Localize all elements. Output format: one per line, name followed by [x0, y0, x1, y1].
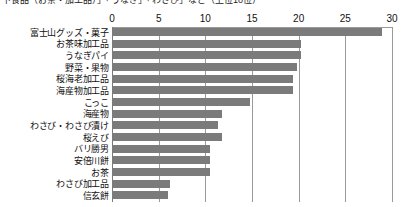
category-label: バリ勝男 — [74, 144, 109, 154]
bar — [112, 75, 293, 83]
x-tick-label: 25 — [340, 13, 351, 25]
bar — [112, 98, 250, 106]
category-label-row: うなぎパイ — [0, 50, 109, 62]
bar-row — [112, 120, 392, 132]
category-label: わさび・わさび漬け — [30, 121, 109, 131]
bar-row — [112, 167, 392, 179]
caption-strip: 下食品（お茶・加工品）」「うなぎ」「わさび」など（上位10位） — [0, 0, 420, 9]
bar — [112, 191, 168, 199]
x-tick-label: 15 — [246, 13, 257, 25]
x-tick-label: 20 — [293, 13, 304, 25]
category-label-row: 海産物 — [0, 109, 109, 121]
category-label-row: バリ勝男 — [0, 144, 109, 156]
category-label-row: わさび・わさび漬け — [0, 120, 109, 132]
bar-row — [112, 97, 392, 109]
category-label: こっこ — [84, 98, 109, 108]
bar — [112, 63, 297, 71]
bar — [112, 110, 222, 118]
bar — [112, 51, 301, 59]
category-label: 安倍川餅 — [74, 156, 109, 166]
category-label: うなぎパイ — [65, 51, 109, 61]
category-label: お茶 — [91, 168, 109, 178]
bar-row — [112, 27, 392, 39]
category-label-row: 桜海老加工品 — [0, 74, 109, 86]
category-label: お茶味加工品 — [56, 39, 109, 49]
bar — [112, 86, 293, 94]
category-label: 桜海老加工品 — [56, 74, 109, 84]
bar-row — [112, 155, 392, 167]
x-tick-label: 0 — [109, 13, 115, 25]
category-label: 桜えび — [83, 133, 109, 143]
bar-row — [112, 74, 392, 86]
category-label: わさび加工品 — [56, 179, 109, 189]
bar — [112, 156, 210, 164]
bar-row — [112, 109, 392, 121]
category-axis-labels: 富士山グッズ・菓子お茶味加工品うなぎパイ野菜・果物桜海老加工品海産物加工品こっこ… — [0, 27, 109, 202]
category-label-row: こっこ — [0, 97, 109, 109]
category-label-row: お茶 — [0, 167, 109, 179]
x-tick-label: 10 — [200, 13, 211, 25]
bar-row — [112, 132, 392, 144]
bar — [112, 121, 218, 129]
x-tick-label: 30 — [386, 13, 397, 25]
plot-area — [112, 27, 392, 202]
category-label-row: 海産物加工品 — [0, 85, 109, 97]
bar-series — [112, 27, 392, 202]
bar-row — [112, 50, 392, 62]
bar — [112, 145, 210, 153]
bar-row — [112, 190, 392, 202]
category-label-row: わさび加工品 — [0, 179, 109, 191]
x-tick-label: 5 — [156, 13, 162, 25]
bar-row — [112, 144, 392, 156]
x-axis-tick-labels: 051015202530 — [0, 13, 420, 26]
bar — [112, 40, 301, 48]
bar-chart: 下食品（お茶・加工品）」「うなぎ」「わさび」など（上位10位） 05101520… — [0, 0, 420, 207]
bar-row — [112, 39, 392, 51]
category-label-row: 野菜・果物 — [0, 62, 109, 74]
bar — [112, 168, 210, 176]
category-label-row: 信玄餅 — [0, 190, 109, 202]
category-label: 野菜・果物 — [65, 63, 109, 73]
gridline — [392, 27, 393, 202]
bar-row — [112, 85, 392, 97]
category-label-row: 桜えび — [0, 132, 109, 144]
caption-text: 下食品（お茶・加工品）」「うなぎ」「わさび」など（上位10位） — [2, 0, 261, 6]
bar — [112, 180, 170, 188]
bar-row — [112, 179, 392, 191]
category-label: 海産物加工品 — [56, 86, 109, 96]
bar-row — [112, 62, 392, 74]
bar — [112, 28, 382, 36]
category-label: 信玄餅 — [83, 191, 109, 201]
bar — [112, 133, 222, 141]
category-label-row: 安倍川餅 — [0, 155, 109, 167]
category-label: 富士山グッズ・菓子 — [30, 28, 109, 38]
category-label-row: 富士山グッズ・菓子 — [0, 27, 109, 39]
category-label: 海産物 — [83, 109, 109, 119]
category-label-row: お茶味加工品 — [0, 39, 109, 51]
